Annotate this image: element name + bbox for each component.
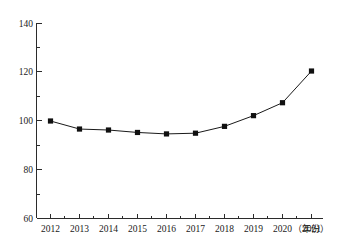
- data-point-marker: [251, 113, 256, 118]
- y-tick-label: 120: [19, 67, 34, 77]
- x-tick-label: 2013: [70, 224, 89, 234]
- data-point-marker: [222, 124, 227, 129]
- y-tick-label: 140: [19, 19, 34, 29]
- x-tick-label: 2016: [157, 224, 176, 234]
- data-point-marker: [48, 118, 53, 123]
- x-tick-label: 2019: [244, 224, 263, 234]
- y-tick-label: 80: [24, 165, 34, 175]
- x-tick-label: 2018: [215, 224, 234, 234]
- y-tick-label: 100: [19, 116, 34, 126]
- chart-canvas: 140 120 100 80 60: [0, 0, 338, 250]
- data-point-marker: [164, 131, 169, 136]
- data-point-marker: [280, 100, 285, 105]
- x-tick-label: 2012: [41, 224, 60, 234]
- x-tick-label: 2020: [273, 224, 292, 234]
- data-point-marker: [135, 130, 140, 135]
- x-tick-label: 2017: [186, 224, 205, 234]
- data-point-marker: [309, 68, 314, 73]
- data-point-marker: [77, 126, 82, 131]
- x-axis-unit-label: （年份）: [293, 223, 329, 234]
- x-tick-label: 2015: [128, 224, 147, 234]
- x-tick-label: 2014: [99, 224, 118, 234]
- y-tick-label: 60: [24, 214, 34, 224]
- chart-background: [0, 0, 338, 250]
- data-point-marker: [193, 131, 198, 136]
- data-point-marker: [106, 127, 111, 132]
- line-chart: 140 120 100 80 60: [0, 0, 338, 250]
